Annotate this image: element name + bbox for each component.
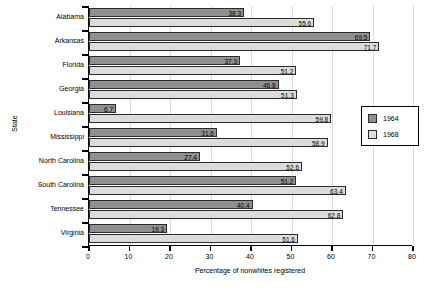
y-tick-mark bbox=[82, 222, 88, 224]
bar-group: 40.462.8 bbox=[89, 200, 412, 220]
bar-value-label: 62.8 bbox=[328, 211, 341, 220]
y-tick-label: Tennessee bbox=[50, 205, 84, 212]
x-tick-label: 60 bbox=[316, 253, 346, 260]
bar-1968[interactable]: 62.8 bbox=[89, 210, 343, 219]
y-tick-mark bbox=[82, 198, 88, 200]
bar-slot: 52.6 bbox=[89, 162, 412, 171]
legend-entry-1964: 1964 bbox=[368, 114, 399, 123]
bar-1964[interactable]: 6.7 bbox=[89, 104, 116, 113]
bar-1964[interactable]: 69.5 bbox=[89, 32, 370, 41]
y-tick-mark bbox=[82, 54, 88, 56]
x-tick-label: 30 bbox=[195, 253, 225, 260]
y-tick-label: Louisiana bbox=[54, 109, 84, 116]
x-tick-mark bbox=[210, 246, 212, 251]
y-tick-label: South Carolina bbox=[38, 181, 84, 188]
bar-1968[interactable]: 59.8 bbox=[89, 114, 331, 123]
y-tick-mark bbox=[82, 126, 88, 128]
legend-swatch-1964 bbox=[368, 114, 377, 123]
x-tick-mark bbox=[129, 246, 131, 251]
bar-slot: 71.7 bbox=[89, 42, 412, 51]
bar-1964[interactable]: 38.3 bbox=[89, 8, 244, 17]
y-tick-label: Virginia bbox=[61, 229, 84, 236]
bar-value-label: 6.7 bbox=[104, 105, 113, 114]
y-tick-mark bbox=[82, 30, 88, 32]
bar-value-label: 71.7 bbox=[364, 43, 377, 52]
bar-slot: 51.3 bbox=[89, 90, 412, 99]
bar-slot: 51.6 bbox=[89, 234, 412, 243]
x-tick-label: 20 bbox=[154, 253, 184, 260]
bar-slot: 46.8 bbox=[89, 80, 412, 89]
bar-slot: 37.3 bbox=[89, 56, 412, 65]
bar-value-label: 51.2 bbox=[281, 177, 294, 186]
legend-entry-1968: 1968 bbox=[368, 130, 399, 139]
x-tick-mark bbox=[250, 246, 252, 251]
bar-1964[interactable]: 46.8 bbox=[89, 80, 279, 89]
bar-1968[interactable]: 63.4 bbox=[89, 186, 346, 195]
bar-group: 38.355.6 bbox=[89, 8, 412, 28]
x-tick-label: 0 bbox=[73, 253, 103, 260]
bar-1968[interactable]: 51.3 bbox=[89, 90, 297, 99]
bar-group: 46.851.3 bbox=[89, 80, 412, 100]
y-tick-label: Arkansas bbox=[55, 37, 84, 44]
y-tick-mark bbox=[82, 150, 88, 152]
bar-1964[interactable]: 19.3 bbox=[89, 224, 167, 233]
bar-1968[interactable]: 51.6 bbox=[89, 234, 298, 243]
bar-1968[interactable]: 58.9 bbox=[89, 138, 328, 147]
x-tick-mark bbox=[331, 246, 333, 251]
x-tick-label: 10 bbox=[114, 253, 144, 260]
bar-slot: 55.6 bbox=[89, 18, 412, 27]
bar-slot: 51.2 bbox=[89, 176, 412, 185]
bar-value-label: 59.8 bbox=[316, 115, 329, 124]
bar-1968[interactable]: 52.6 bbox=[89, 162, 302, 171]
y-tick-mark bbox=[82, 78, 88, 80]
bar-1968[interactable]: 51.2 bbox=[89, 66, 296, 75]
legend-swatch-1968 bbox=[368, 130, 377, 139]
bar-value-label: 51.6 bbox=[282, 235, 295, 244]
bar-value-label: 27.4 bbox=[184, 153, 197, 162]
bar-value-label: 37.3 bbox=[224, 57, 237, 66]
x-tick-mark bbox=[169, 246, 171, 251]
y-tick-mark bbox=[82, 6, 88, 8]
bar-slot: 40.4 bbox=[89, 200, 412, 209]
bar-1964[interactable]: 40.4 bbox=[89, 200, 253, 209]
x-tick-mark bbox=[412, 246, 414, 251]
x-tick-mark bbox=[291, 246, 293, 251]
x-tick-label: 50 bbox=[276, 253, 306, 260]
legend-label-1964: 1964 bbox=[383, 115, 399, 122]
bar-value-label: 40.4 bbox=[237, 201, 250, 210]
bar-group: 37.351.2 bbox=[89, 56, 412, 76]
bar-slot: 51.2 bbox=[89, 66, 412, 75]
bar-value-label: 51.2 bbox=[281, 67, 294, 76]
bar-value-label: 38.3 bbox=[228, 9, 241, 18]
bar-value-label: 58.9 bbox=[312, 139, 325, 148]
bar-group: 51.263.4 bbox=[89, 176, 412, 196]
bar-value-label: 46.8 bbox=[263, 81, 276, 90]
bar-slot: 62.8 bbox=[89, 210, 412, 219]
y-tick-label: Alabama bbox=[56, 13, 84, 20]
bar-slot: 19.3 bbox=[89, 224, 412, 233]
y-tick-mark bbox=[82, 102, 88, 104]
bar-value-label: 51.3 bbox=[281, 91, 294, 100]
x-tick-label: 40 bbox=[235, 253, 265, 260]
bar-1964[interactable]: 31.6 bbox=[89, 128, 217, 137]
bar-1964[interactable]: 51.2 bbox=[89, 176, 296, 185]
bar-value-label: 63.4 bbox=[330, 187, 343, 196]
bar-1968[interactable]: 71.7 bbox=[89, 42, 379, 51]
bar-slot: 63.4 bbox=[89, 186, 412, 195]
bar-slot: 38.3 bbox=[89, 8, 412, 17]
bar-1964[interactable]: 27.4 bbox=[89, 152, 200, 161]
y-tick-mark bbox=[82, 174, 88, 176]
x-tick-label: 80 bbox=[397, 253, 427, 260]
x-tick-mark bbox=[88, 246, 90, 251]
x-axis-title: Percentage of nonwhites registered bbox=[88, 267, 412, 274]
bar-slot: 69.5 bbox=[89, 32, 412, 41]
legend: 1964 1968 bbox=[361, 106, 419, 146]
bar-value-label: 69.5 bbox=[355, 33, 368, 42]
bar-1968[interactable]: 55.6 bbox=[89, 18, 314, 27]
legend-label-1968: 1968 bbox=[383, 131, 399, 138]
bar-group: 69.571.7 bbox=[89, 32, 412, 52]
bar-value-label: 31.6 bbox=[201, 129, 214, 138]
y-tick-label: Mississippi bbox=[50, 133, 84, 140]
bar-slot: 27.4 bbox=[89, 152, 412, 161]
bar-1964[interactable]: 37.3 bbox=[89, 56, 240, 65]
